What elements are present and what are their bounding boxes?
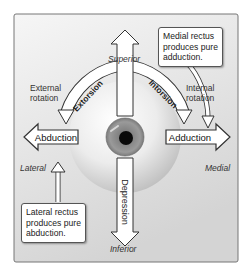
- internal-rotation-label: Internal rotation: [186, 83, 214, 103]
- internal-rotation-line2: rotation: [186, 93, 214, 103]
- lateral-rectus-line1: Lateral rectus: [26, 207, 81, 218]
- external-rotation-line2: rotation: [30, 93, 61, 103]
- pupil: [119, 131, 133, 145]
- eye-movement-diagram: Elevation Depression Extorsion Intorsion…: [0, 0, 250, 270]
- medial-rectus-line3: adduction.: [163, 52, 218, 63]
- adduction-label: Adduction: [169, 132, 211, 143]
- medial-rectus-callout: Medial rectus produces pure adduction.: [158, 27, 223, 67]
- superior-label: Superior: [108, 54, 140, 64]
- inferior-label: Inferior: [110, 244, 136, 254]
- medial-rectus-line1: Medial rectus: [163, 31, 218, 42]
- depression-label: Depression: [120, 179, 130, 225]
- medial-rectus-line2: produces pure: [163, 42, 218, 53]
- external-rotation-line1: External: [30, 83, 61, 93]
- external-rotation-label: External rotation: [30, 83, 61, 103]
- lateral-rectus-line3: abduction.: [26, 228, 81, 239]
- lateral-label: Lateral: [20, 163, 46, 173]
- lateral-rectus-line2: produces pure: [26, 218, 81, 229]
- internal-rotation-line1: Internal: [186, 83, 214, 93]
- lateral-rectus-callout: Lateral rectus produces pure abduction.: [21, 203, 86, 243]
- abduction-label: Abduction: [35, 132, 77, 143]
- medial-label: Medial: [205, 163, 230, 173]
